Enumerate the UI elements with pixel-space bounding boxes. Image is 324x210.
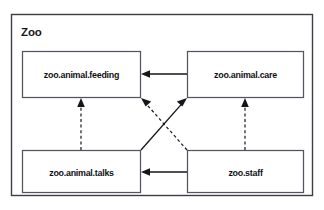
package-title: Zoo [21, 26, 42, 38]
node-care[interactable]: zoo.animal.care [188, 52, 304, 98]
diagram-canvas: Zoo zoo.animal.feeding zoo.animal.care z… [0, 0, 324, 210]
node-staff-label: zoo.staff [228, 168, 263, 178]
uml-package-diagram: Zoo zoo.animal.feeding zoo.animal.care z… [0, 0, 324, 210]
node-feeding-label: zoo.animal.feeding [44, 70, 119, 80]
node-staff[interactable]: zoo.staff [188, 151, 304, 193]
node-talks-label: zoo.animal.talks [49, 168, 114, 178]
node-talks[interactable]: zoo.animal.talks [23, 151, 141, 193]
node-feeding[interactable]: zoo.animal.feeding [23, 52, 141, 98]
node-care-label: zoo.animal.care [214, 70, 277, 80]
